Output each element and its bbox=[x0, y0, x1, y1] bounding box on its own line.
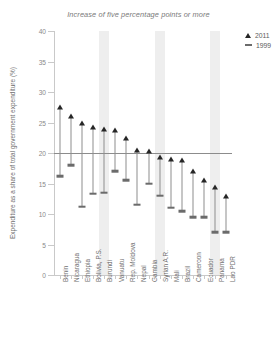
legend-label-2011: 2011 bbox=[255, 32, 270, 39]
data-marker-1999[interactable] bbox=[178, 210, 185, 213]
y-axis-title: Expenditure as a share of total governme… bbox=[9, 67, 16, 239]
connector-stem bbox=[159, 157, 160, 195]
connector-stem bbox=[226, 196, 227, 233]
data-marker-1999[interactable] bbox=[67, 164, 74, 167]
triangle-marker-icon bbox=[245, 33, 251, 38]
data-point-group[interactable] bbox=[99, 31, 110, 275]
x-axis-tick bbox=[204, 275, 205, 279]
y-axis-tick-label: 15 bbox=[39, 180, 46, 187]
x-axis-tick-label: Rep. Moldova bbox=[129, 243, 136, 282]
data-marker-2011[interactable] bbox=[223, 193, 229, 198]
x-axis-tick-label: Brazil bbox=[184, 266, 191, 282]
connector-stem bbox=[104, 129, 105, 193]
data-marker-2011[interactable] bbox=[68, 114, 74, 119]
y-axis-tick-label: 0 bbox=[42, 272, 46, 279]
x-axis-tick bbox=[226, 275, 227, 279]
connector-stem bbox=[215, 187, 216, 233]
legend-item-2011: 2011 bbox=[245, 30, 271, 40]
x-axis-tick bbox=[93, 275, 94, 279]
data-marker-2011[interactable] bbox=[112, 128, 118, 133]
y-axis-tick-label: 25 bbox=[39, 119, 46, 126]
data-point-group[interactable] bbox=[65, 31, 76, 275]
connector-stem bbox=[92, 127, 93, 193]
x-axis-tick-label: Cameroon bbox=[195, 252, 202, 282]
data-marker-1999[interactable] bbox=[123, 179, 130, 182]
data-marker-2011[interactable] bbox=[146, 149, 152, 154]
y-axis-tick-label: 5 bbox=[42, 241, 46, 248]
data-marker-2011[interactable] bbox=[134, 147, 140, 152]
data-marker-2011[interactable] bbox=[168, 157, 174, 162]
data-marker-2011[interactable] bbox=[101, 126, 107, 131]
data-marker-1999[interactable] bbox=[112, 170, 119, 173]
x-axis-tick-label: Ecuador bbox=[207, 258, 214, 282]
x-axis-tick-label: Nepal bbox=[140, 265, 147, 282]
data-marker-1999[interactable] bbox=[101, 191, 108, 194]
data-marker-1999[interactable] bbox=[190, 216, 197, 219]
dash-marker-icon bbox=[245, 44, 252, 47]
connector-stem bbox=[148, 151, 149, 183]
data-marker-2011[interactable] bbox=[201, 178, 207, 183]
x-axis-tick bbox=[82, 275, 83, 279]
data-point-group[interactable] bbox=[54, 31, 65, 275]
data-marker-2011[interactable] bbox=[79, 120, 85, 125]
x-axis-tick bbox=[137, 275, 138, 279]
data-point-group[interactable] bbox=[132, 31, 143, 275]
data-point-group[interactable] bbox=[110, 31, 121, 275]
data-point-group[interactable] bbox=[76, 31, 87, 275]
data-marker-2011[interactable] bbox=[212, 184, 218, 189]
y-axis-tick-label: 10 bbox=[39, 211, 46, 218]
connector-stem bbox=[204, 180, 205, 217]
data-marker-1999[interactable] bbox=[134, 204, 141, 207]
connector-stem bbox=[126, 138, 127, 181]
data-marker-1999[interactable] bbox=[56, 175, 63, 178]
data-point-group[interactable] bbox=[121, 31, 132, 275]
data-marker-1999[interactable] bbox=[78, 205, 85, 208]
data-marker-1999[interactable] bbox=[201, 216, 208, 219]
x-axis-tick bbox=[215, 275, 216, 279]
legend-label-1999: 1999 bbox=[256, 42, 271, 49]
data-marker-1999[interactable] bbox=[167, 207, 174, 210]
connector-stem bbox=[170, 159, 171, 208]
x-axis-tick bbox=[71, 275, 72, 279]
data-point-group[interactable] bbox=[154, 31, 165, 275]
x-axis-tick-label: Burundi bbox=[106, 260, 113, 282]
data-marker-2011[interactable] bbox=[179, 158, 185, 163]
x-axis-tick bbox=[160, 275, 161, 279]
data-point-group[interactable] bbox=[210, 31, 221, 275]
x-axis-tick bbox=[171, 275, 172, 279]
x-axis-tick-label: Bolivia, P.S. bbox=[95, 248, 102, 282]
data-marker-2011[interactable] bbox=[123, 135, 129, 140]
x-axis-tick bbox=[126, 275, 127, 279]
data-marker-1999[interactable] bbox=[156, 194, 163, 197]
data-marker-1999[interactable] bbox=[223, 231, 230, 234]
connector-stem bbox=[181, 160, 182, 211]
data-marker-2011[interactable] bbox=[157, 155, 163, 160]
connector-stem bbox=[81, 123, 82, 207]
data-marker-1999[interactable] bbox=[212, 231, 219, 234]
x-axis-tick bbox=[182, 275, 183, 279]
data-point-group[interactable] bbox=[188, 31, 199, 275]
connector-stem bbox=[137, 150, 138, 205]
x-axis-tick bbox=[104, 275, 105, 279]
data-point-group[interactable] bbox=[165, 31, 176, 275]
x-axis-tick bbox=[149, 275, 150, 279]
data-marker-1999[interactable] bbox=[89, 193, 96, 196]
data-point-group[interactable] bbox=[199, 31, 210, 275]
y-axis-tick-label: 40 bbox=[39, 28, 46, 35]
connector-stem bbox=[70, 116, 71, 165]
data-point-group[interactable] bbox=[221, 31, 232, 275]
chart-container: Increase of five percentage points or mo… bbox=[0, 0, 277, 338]
x-axis-tick-label: Gambia bbox=[151, 260, 158, 282]
data-marker-2011[interactable] bbox=[90, 125, 96, 130]
y-axis-tick bbox=[48, 275, 54, 276]
y-axis-tick-label: 30 bbox=[39, 89, 46, 96]
data-marker-1999[interactable] bbox=[145, 182, 152, 185]
data-point-group[interactable] bbox=[143, 31, 154, 275]
data-marker-2011[interactable] bbox=[57, 105, 63, 110]
data-marker-2011[interactable] bbox=[190, 169, 196, 174]
data-point-group[interactable] bbox=[176, 31, 187, 275]
data-point-group[interactable] bbox=[87, 31, 98, 275]
plot-area: 0510152025303540 bbox=[54, 31, 232, 275]
x-axis-tick-label: Ethiopia bbox=[84, 259, 91, 282]
chart-legend: 2011 1999 bbox=[245, 30, 271, 50]
